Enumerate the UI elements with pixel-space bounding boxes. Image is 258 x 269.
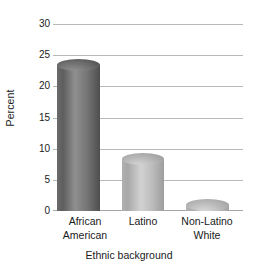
- bar-cap-non-latino-white: [186, 199, 229, 211]
- bar-chart: Percent 30 25 20 15 10 5 0: [0, 0, 258, 269]
- bar-latino[interactable]: [122, 153, 164, 211]
- y-tick-label-5: 5: [28, 175, 50, 185]
- x-axis-title: Ethnic background: [0, 249, 258, 261]
- x-tick-label-non-latino-white-line1: Non-Latino: [181, 215, 232, 227]
- y-tick-label-30: 30: [28, 19, 50, 29]
- y-tick-label-20: 20: [28, 81, 50, 91]
- x-tick-label-latino-line1: Latino: [129, 215, 158, 227]
- bar-non-latino-white[interactable]: [186, 199, 229, 211]
- x-tick-label-african-american-line1: African: [69, 215, 102, 227]
- y-tick-label-10: 10: [28, 144, 50, 154]
- y-axis-title: Percent: [0, 0, 20, 215]
- x-axis-title-label: Ethnic background: [86, 249, 173, 261]
- x-tick-label-non-latino-white-line2: White: [167, 229, 247, 243]
- x-tick-label-non-latino-white: Non-Latino White: [167, 215, 247, 242]
- bar-african-american[interactable]: [57, 59, 100, 211]
- y-axis-title-label: Percent: [4, 89, 16, 126]
- bars-layer: [53, 24, 243, 211]
- bar-body-latino: [122, 159, 164, 211]
- x-axis-tick-labels: African American Latino Non-Latino White: [53, 215, 243, 247]
- y-tick-label-15: 15: [28, 113, 50, 123]
- x-tick-label-african-american-line2: American: [45, 229, 125, 243]
- y-axis-tick-labels: 30 25 20 15 10 5 0: [24, 24, 50, 211]
- y-tick-label-25: 25: [28, 50, 50, 60]
- bar-body-african-american: [57, 65, 100, 211]
